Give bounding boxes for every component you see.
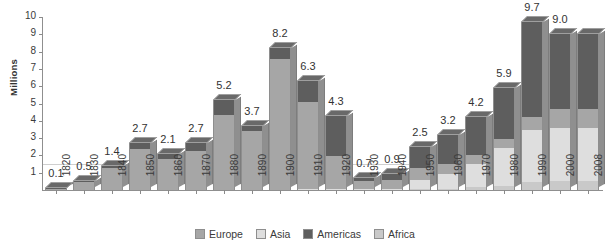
x-axis-tick-label: 1910 [313,154,324,194]
bar-value-label: 9.0 [538,13,582,25]
x-axis-tick-mark [112,190,113,194]
y-axis-tick-label: 5 [12,98,36,108]
bar-segment-americas [466,117,486,154]
y-axis-tick-label: 3 [12,132,36,142]
x-axis-tick-label: 1930 [369,154,380,194]
x-axis-tick-mark [196,190,197,194]
x-axis-tick-label: 2008 [593,154,604,194]
x-axis-tick-label: 1980 [509,154,520,194]
y-axis-tick-label: 10 [12,11,36,21]
y-axis-tick-label: 1 [12,167,36,177]
bar-segment-europe [522,117,542,130]
legend-swatch-americas [303,229,313,239]
y-axis-tick-label: 2 [12,149,36,159]
bar-segment-americas [326,116,346,157]
bar-value-label: 4.2 [454,96,498,108]
x-axis-tick-label: 1920 [341,154,352,194]
bar-segment-europe [550,109,570,128]
bar-segment-americas [522,22,542,117]
x-axis-tick-label: 2000 [565,154,576,194]
x-axis-tick-mark [364,190,365,194]
x-axis-tick-label: 1840 [117,154,128,194]
bar-segment-europe [494,139,514,149]
bar-value-label: 9.7 [510,1,554,13]
x-axis-tick-label: 1900 [285,154,296,194]
x-axis-tick-mark [84,190,85,194]
y-axis-tick-label: 7 [12,63,36,73]
x-axis-tick-mark [588,190,589,194]
legend-swatch-africa [374,229,384,239]
x-axis-tick-mark [56,190,57,194]
bar-segment-americas [270,48,290,58]
x-axis-tick-mark [448,190,449,194]
legend-item-asia[interactable]: Asia [256,228,290,240]
x-axis-tick-mark [560,190,561,194]
y-axis-tick-label: 8 [12,46,36,56]
x-axis-tick-mark [476,190,477,194]
bar-value-label: 5.2 [202,79,246,91]
legend-label: Africa [388,228,415,240]
bar-value-label: 5.9 [482,67,526,79]
bar-segment-americas [550,34,570,108]
x-axis-tick-label: 1950 [425,154,436,194]
y-axis-tick-label: 6 [12,80,36,90]
x-axis-tick-label: 1990 [537,154,548,194]
legend-item-americas[interactable]: Americas [303,228,361,240]
bar-segment-americas [186,143,206,151]
bar-segment-americas [578,34,598,108]
x-axis-tick-mark [532,190,533,194]
legend-swatch-europe [195,229,205,239]
x-axis-tick-label: 1820 [61,154,72,194]
legend-item-europe[interactable]: Europe [195,228,243,240]
chart-legend: EuropeAsiaAmericasAfrica [0,228,610,240]
x-axis-tick-mark [224,190,225,194]
bar-value-label: 6.3 [286,60,330,72]
legend-label: Asia [270,228,290,240]
legend-swatch-asia [256,229,266,239]
x-axis-tick-label: 1890 [257,154,268,194]
legend-label: Europe [209,228,243,240]
x-axis-tick-label: 1960 [453,154,464,194]
bar-chart: Millions 12345678910 0.10.51.42.72.12.75… [0,0,610,250]
bar-value-label: 8.2 [258,27,302,39]
bar-value-label: 3.2 [426,114,470,126]
x-axis-tick-mark [252,190,253,194]
bar-segment-americas [494,88,514,139]
x-axis-tick-mark [168,190,169,194]
x-axis-tick-mark [308,190,309,194]
bar-value-label: 2.7 [174,122,218,134]
bar-value-label: 3.7 [230,105,274,117]
x-axis-tick-label: 1860 [173,154,184,194]
x-axis-tick-mark [420,190,421,194]
bar-segment-europe [578,109,598,128]
x-axis-tick-label: 1830 [89,154,100,194]
bar-value-label: 2.5 [398,126,442,138]
y-axis-tick-label: 9 [12,28,36,38]
y-axis-tick-label: 4 [12,115,36,125]
x-axis-tick-mark [280,190,281,194]
x-axis-tick-mark [140,190,141,194]
x-axis-tick-mark [504,190,505,194]
bar-value-label: 4.3 [314,95,358,107]
x-axis-tick-label: 1880 [229,154,240,194]
legend-item-africa[interactable]: Africa [374,228,415,240]
legend-label: Americas [317,228,361,240]
x-axis-tick-label: 1940 [397,154,408,194]
x-axis-tick-mark [392,190,393,194]
x-axis-tick-mark [336,190,337,194]
x-axis-tick-label: 1870 [201,154,212,194]
x-axis-tick-label: 1970 [481,154,492,194]
x-axis-tick-label: 1850 [145,154,156,194]
